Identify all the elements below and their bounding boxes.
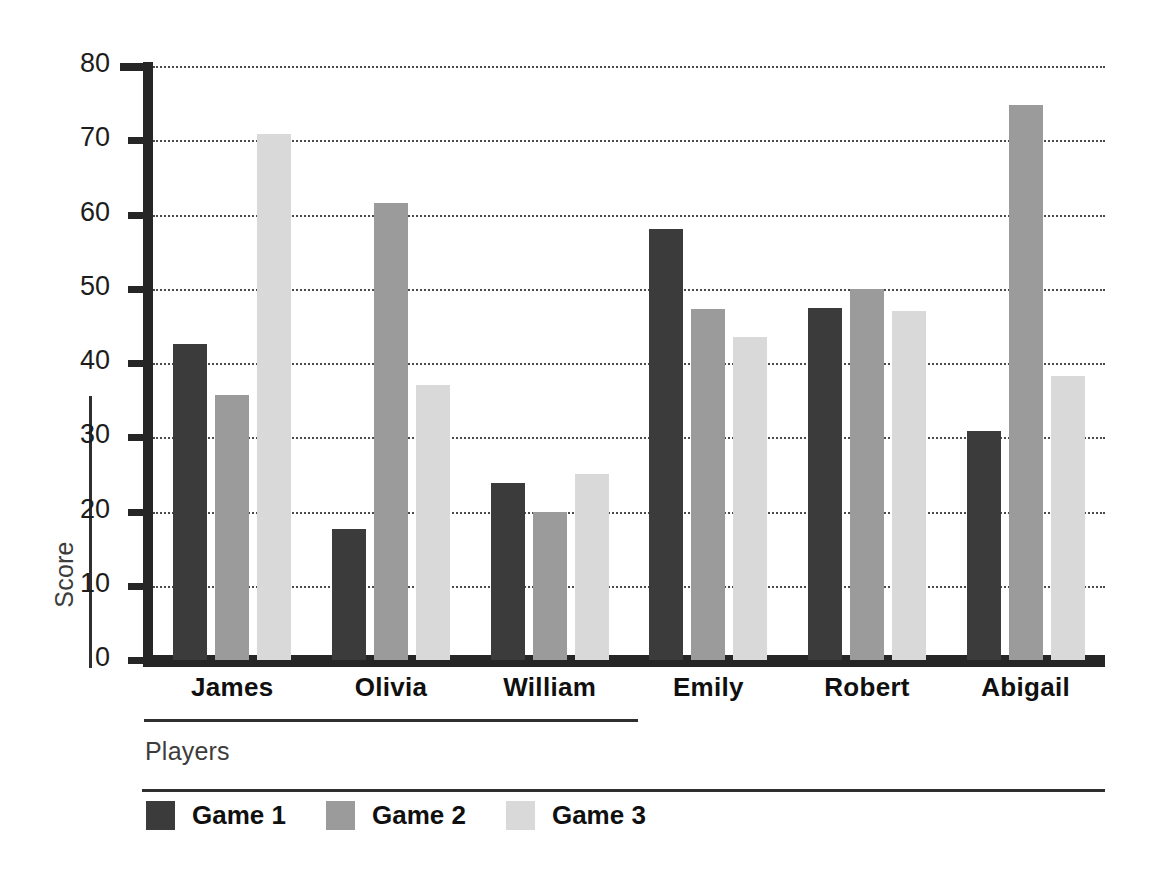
x-axis-tick-label: William xyxy=(470,672,629,703)
legend-divider xyxy=(142,789,1105,792)
y-axis-tick-mark xyxy=(128,286,144,293)
y-axis-tick-mark xyxy=(128,583,144,590)
bar-group xyxy=(788,66,947,660)
legend-label: Game 1 xyxy=(192,800,286,831)
x-axis-tick-label: Robert xyxy=(788,672,947,703)
y-axis-tick-label: 0 xyxy=(50,644,110,671)
x-axis-tick-label: Olivia xyxy=(312,672,471,703)
legend-label: Game 3 xyxy=(552,800,646,831)
bar[interactable] xyxy=(575,474,609,660)
y-axis-tick-label: 30 xyxy=(50,421,110,448)
y-axis-tick-label: 70 xyxy=(50,124,110,151)
bar[interactable] xyxy=(967,431,1001,660)
y-axis-tick-mark xyxy=(128,137,144,144)
bar-group xyxy=(312,66,471,660)
plot-area xyxy=(153,66,1105,660)
legend: Game 1Game 2Game 3 xyxy=(146,800,686,831)
y-axis-tick-label: 80 xyxy=(50,50,110,77)
y-axis-tick-mark xyxy=(128,360,144,367)
bar[interactable] xyxy=(374,203,408,660)
legend-label: Game 2 xyxy=(372,800,466,831)
x-axis-tick-label: Abigail xyxy=(946,672,1105,703)
y-axis-tick-label: 60 xyxy=(50,199,110,226)
bar[interactable] xyxy=(733,337,767,660)
y-axis-tick-mark xyxy=(128,509,144,516)
y-axis-spine xyxy=(143,62,153,667)
x-axis-tick-label: James xyxy=(153,672,312,703)
bar[interactable] xyxy=(1009,105,1043,660)
x-axis-tick-label: Emily xyxy=(629,672,788,703)
bar[interactable] xyxy=(215,395,249,660)
bar[interactable] xyxy=(850,289,884,660)
x-axis-title: Players xyxy=(145,737,230,766)
y-axis-tick-mark xyxy=(128,212,144,219)
legend-swatch-icon xyxy=(146,801,175,830)
bar[interactable] xyxy=(892,311,926,660)
legend-swatch-icon xyxy=(506,801,535,830)
y-axis-tick-mark xyxy=(128,657,144,664)
bar[interactable] xyxy=(533,512,567,660)
bar-groups xyxy=(153,66,1105,660)
legend-item[interactable]: Game 3 xyxy=(506,800,646,831)
bar[interactable] xyxy=(332,529,366,660)
bar-group xyxy=(629,66,788,660)
legend-item[interactable]: Game 2 xyxy=(326,800,466,831)
bar[interactable] xyxy=(649,229,683,660)
x-axis-title-rule xyxy=(144,719,638,722)
x-axis-tick-labels: JamesOliviaWilliamEmilyRobertAbigail xyxy=(153,672,1105,703)
y-axis-tick-mark xyxy=(120,63,144,71)
y-axis-tick-label: 40 xyxy=(50,347,110,374)
bar-chart: Score 01020304050607080 JamesOliviaWilli… xyxy=(0,0,1162,872)
bar-group xyxy=(470,66,629,660)
bar[interactable] xyxy=(173,344,207,660)
bar[interactable] xyxy=(808,308,842,660)
bar[interactable] xyxy=(491,483,525,660)
legend-swatch-icon xyxy=(326,801,355,830)
bar[interactable] xyxy=(416,385,450,660)
bar[interactable] xyxy=(1051,376,1085,660)
y-axis-tick-label: 50 xyxy=(50,273,110,300)
legend-item[interactable]: Game 1 xyxy=(146,800,286,831)
bar-group xyxy=(153,66,312,660)
bar[interactable] xyxy=(691,309,725,660)
y-axis-tick-label: 10 xyxy=(50,570,110,597)
y-axis-tick-mark xyxy=(128,434,144,441)
y-axis-tick-label: 20 xyxy=(50,496,110,523)
bar[interactable] xyxy=(257,134,291,660)
bar-group xyxy=(946,66,1105,660)
